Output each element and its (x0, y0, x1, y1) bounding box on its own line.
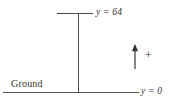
pole-height-diagram: y = 64 y = 0 Ground + (0, 0, 177, 110)
label-y-0: y = 0 (141, 86, 162, 96)
top-tick (57, 13, 93, 14)
positive-sign-label: + (145, 49, 152, 61)
ground-line (3, 92, 139, 93)
label-ground: Ground (11, 78, 43, 89)
up-arrow-icon (131, 44, 139, 69)
label-y-64: y = 64 (96, 7, 122, 17)
vertical-pole (78, 13, 79, 93)
